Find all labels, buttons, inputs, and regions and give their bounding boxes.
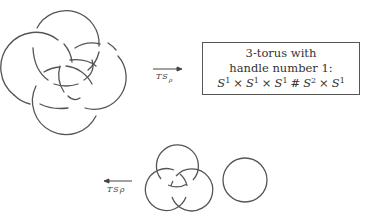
arrow-right-icon (153, 67, 182, 71)
result-box: 3-torus with handle number 1: S1×S1×S1#S… (202, 42, 360, 95)
link-component-top (37, 11, 99, 46)
borromean-rings (145, 145, 212, 211)
arrow-left-icon (104, 179, 132, 183)
bottom-arrow-label: TSρ (107, 185, 126, 194)
result-line-1: 3-torus with (246, 46, 317, 61)
result-formula: S1×S1×S1#S2×S1 (217, 76, 344, 91)
knot-diagram (0, 0, 370, 221)
result-line-2: handle number 1: (229, 61, 332, 76)
link-component-left (1, 32, 58, 95)
link-component-bottom (32, 86, 96, 135)
unknot-circle (223, 158, 267, 202)
top-arrow-label: TSρ (156, 72, 173, 83)
